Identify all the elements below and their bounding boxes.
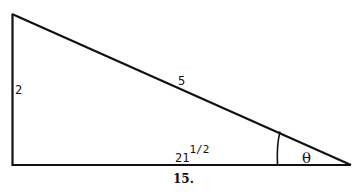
horizontal-side-exponent: 1/2 [189, 143, 209, 156]
vertical-side-label: 2 [15, 84, 22, 96]
horizontal-side-label: 211/2 [175, 152, 209, 165]
horizontal-side-base: 21 [175, 151, 189, 165]
hypotenuse [12, 14, 351, 165]
angle-arc [277, 132, 280, 166]
right-triangle-figure: 2 5 211/2 θ 15. [0, 0, 358, 195]
angle-theta-label: θ [302, 151, 311, 166]
figure-caption: 15. [173, 173, 194, 185]
hypotenuse-label: 5 [178, 75, 185, 87]
